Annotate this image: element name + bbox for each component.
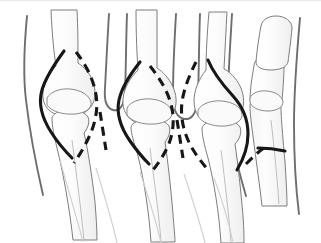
- articular-surface-4: [198, 101, 242, 126]
- top-border-divider: [0, 0, 321, 1]
- distal-contour-b: [96, 168, 117, 243]
- bone-phalanx-dist-1: [256, 16, 292, 70]
- articular-surface-1: [250, 91, 283, 111]
- ligament-dashed-intermediate-1: [100, 112, 106, 150]
- distal-contour-d: [184, 174, 205, 243]
- bone-phalanx-prox-4: [202, 120, 244, 243]
- bone-phalanx-prox-2: [52, 110, 97, 240]
- bone-phalanx-prox-3: [131, 119, 175, 242]
- skin-contour-radial-border: [294, 18, 300, 214]
- hand-anatomy-drawing: [0, 0, 321, 243]
- anatomy-figure: Line drawing of the dorsal aspect of a h…: [0, 0, 321, 243]
